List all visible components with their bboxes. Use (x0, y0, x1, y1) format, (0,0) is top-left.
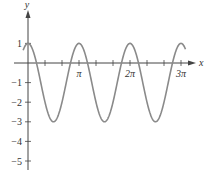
y-tick-label: −3 (11, 116, 22, 127)
chart: π2π3π1−1−2−3−4−5xy (0, 0, 205, 176)
y-tick-label: 1 (17, 38, 22, 49)
curve-line (23, 43, 185, 121)
x-tick-label: 3π (175, 68, 187, 79)
x-tick-label: π (76, 68, 82, 79)
y-axis-label: y (24, 0, 30, 10)
y-axis-arrow-icon (26, 10, 31, 18)
y-tick-label: −2 (11, 97, 22, 108)
y-tick-label: −4 (11, 136, 22, 147)
x-tick-label: 2π (125, 68, 136, 79)
y-tick-label: −1 (11, 77, 22, 88)
axes (14, 10, 196, 170)
x-axis-arrow-icon (188, 61, 196, 66)
y-tick-label: −5 (11, 156, 22, 167)
x-axis-label: x (198, 57, 204, 68)
